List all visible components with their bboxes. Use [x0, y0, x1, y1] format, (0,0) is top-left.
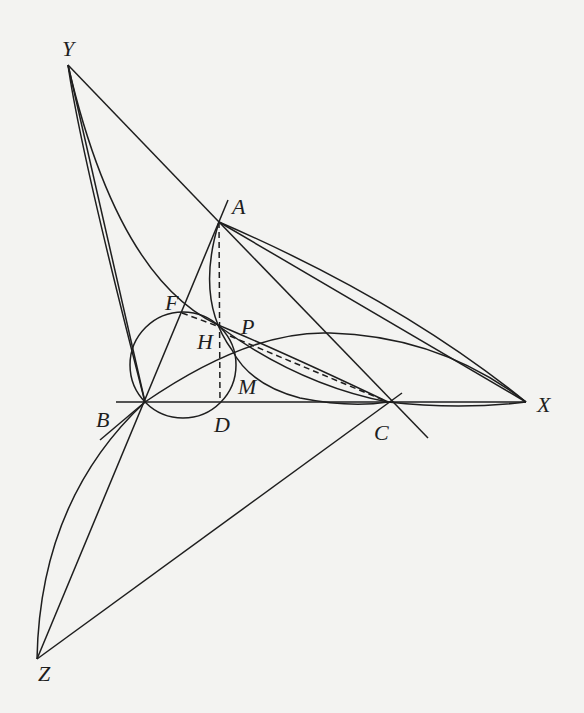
straight-segments [37, 65, 526, 659]
diagram-canvas: Y A B C D X Z H P F M [0, 0, 584, 713]
curved-arcs [37, 65, 526, 659]
segment-AX [219, 222, 526, 402]
label-C: C [374, 420, 389, 445]
altitude-AD [219, 222, 220, 402]
point-labels: Y A B C D X Z H P F M [38, 36, 552, 686]
label-A: A [230, 194, 246, 219]
label-Y: Y [62, 36, 77, 61]
label-P: P [240, 314, 254, 339]
label-B: B [96, 407, 109, 432]
label-X: X [536, 392, 552, 417]
arc-A-to-M [210, 222, 388, 404]
segment-YB [68, 65, 145, 402]
segment-YA [68, 65, 219, 222]
label-H: H [196, 329, 214, 354]
label-M: M [237, 374, 258, 399]
label-Z: Z [38, 661, 51, 686]
label-F: F [164, 290, 179, 315]
geometry-diagram: Y A B C D X Z H P F M [0, 0, 584, 713]
label-D: D [213, 412, 230, 437]
